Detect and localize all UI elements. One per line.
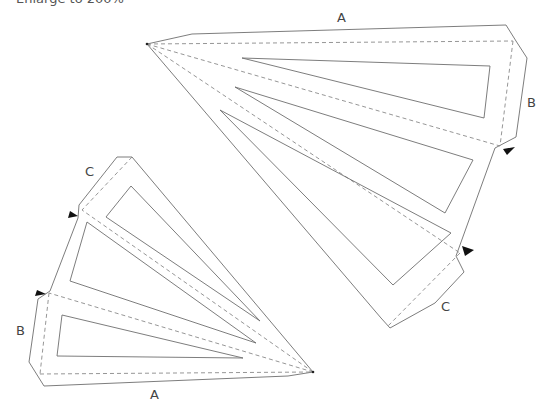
cut-outline [147,25,527,328]
edge-label-b: B [527,95,536,110]
alignment-arrow-icon [68,211,78,218]
fold-line [49,293,313,372]
fold-line [40,372,313,374]
window-cutout [57,315,243,358]
fold-line [388,253,460,326]
fold-line [147,44,500,146]
edge-label-c: C [85,164,94,179]
edge-label-b: B [16,323,25,338]
alignment-arrow-icon [503,147,515,155]
window-cutouts [57,186,260,358]
edge-label-a: A [337,10,346,25]
fold-lines [147,41,513,326]
papercraft-template-diagram: A B C A B C [0,0,547,415]
window-cutout [70,222,256,343]
apex-point-icon [146,43,149,46]
alignment-arrow-icon [462,246,474,256]
window-cutout [235,87,473,213]
window-cutout [242,58,490,118]
fold-lines [40,157,313,374]
fold-line [147,44,460,253]
top-right-template: A B C [146,10,536,328]
window-cutouts [220,58,490,285]
cut-outline [29,157,313,386]
fold-line [147,41,513,44]
fold-line [500,41,513,146]
fold-line [40,293,49,374]
bottom-left-template: A B C [16,157,314,402]
window-cutout [220,110,451,285]
alignment-markers [462,147,515,256]
edge-label-c: C [441,299,450,314]
alignment-markers [35,211,78,296]
edge-label-a: A [150,387,159,402]
apex-point-icon [312,371,315,374]
